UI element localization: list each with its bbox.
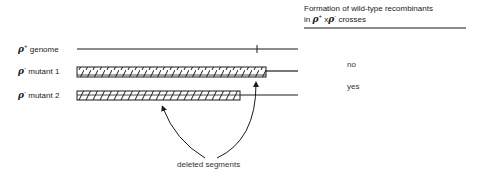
mutant-1-deleted-segment <box>77 67 266 77</box>
mutant-1-track <box>77 67 298 77</box>
mutant-2-track <box>77 91 298 100</box>
genome-line <box>77 45 298 53</box>
mutant-2-deleted-segment <box>77 91 240 100</box>
genome-diagram <box>0 0 479 177</box>
arrow-to-mutant-2-icon <box>163 108 205 158</box>
deleted-segments-label: deleted segments <box>177 160 240 169</box>
